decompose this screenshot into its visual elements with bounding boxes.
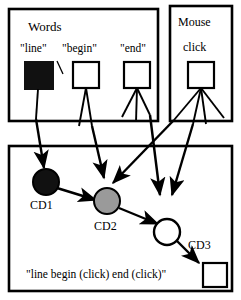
token-label-begin: "begin": [62, 43, 97, 55]
mouse-panel-label-line2: click: [183, 41, 206, 53]
result-square: [203, 263, 227, 287]
token-square-end: [124, 62, 150, 88]
node-cd3: [154, 219, 180, 245]
output-sentence: "line begin (click) end (click)": [26, 269, 166, 281]
token-square-click: [188, 62, 214, 88]
token-leg-end-2: [136, 88, 137, 122]
token-square-line: [25, 62, 53, 89]
node-label-cd3: CD3: [188, 239, 211, 251]
mouse-panel-label-line1: Mouse: [178, 16, 211, 28]
token-label-line: "line": [20, 43, 47, 55]
token-square-begin: [73, 62, 99, 88]
node-label-cd2: CD2: [94, 220, 117, 232]
token-label-end: "end": [120, 43, 146, 55]
words-panel-label: Words: [28, 20, 62, 33]
node-label-cd1: CD1: [30, 199, 53, 211]
node-cd1: [33, 169, 59, 195]
node-cd2: [94, 188, 120, 214]
figure-canvas: Words Mouse click "line" "begin" "end" C…: [0, 0, 241, 300]
